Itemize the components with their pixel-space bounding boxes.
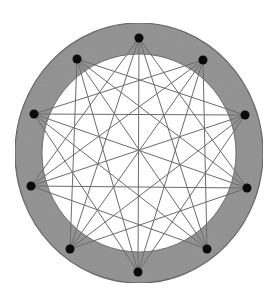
ring-graph-diagram [0, 0, 279, 300]
node-dot [243, 184, 252, 193]
node-dot [203, 245, 212, 254]
node-dot [30, 110, 39, 119]
node-dot [241, 111, 250, 120]
node-dot [66, 245, 75, 254]
node-dot [73, 55, 82, 64]
node-dot [199, 56, 208, 65]
node-dot [134, 268, 143, 277]
node-dot [27, 182, 36, 191]
node-dot [135, 34, 144, 43]
diagram-canvas [0, 0, 279, 300]
